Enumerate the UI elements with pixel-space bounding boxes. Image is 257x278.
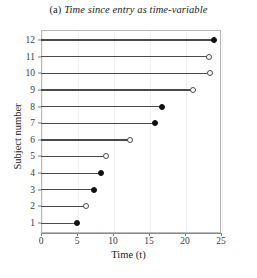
follow-up-line xyxy=(41,223,77,224)
figure-title-label: (a) xyxy=(50,4,62,15)
follow-up-line xyxy=(41,106,162,107)
censored-marker xyxy=(127,137,133,143)
follow-up-line xyxy=(41,56,209,57)
x-axis-tick-label: 10 xyxy=(108,236,118,246)
gridline-vertical xyxy=(150,31,151,232)
y-axis-tick-label: 12 xyxy=(5,35,35,45)
event-marker xyxy=(152,120,158,126)
event-marker xyxy=(211,37,217,43)
follow-up-line xyxy=(41,39,214,40)
x-axis-tick-label: 0 xyxy=(39,236,44,246)
follow-up-line xyxy=(41,89,193,90)
follow-up-line xyxy=(41,123,155,124)
figure-title: (a) Time since entry as time-variable xyxy=(0,4,257,15)
follow-up-line xyxy=(41,206,86,207)
censored-marker xyxy=(207,70,213,76)
event-marker xyxy=(74,220,80,226)
x-axis-line xyxy=(41,233,221,234)
gridline-vertical xyxy=(78,31,79,232)
y-axis-label: Subject number xyxy=(12,62,23,212)
y-axis-tick-label: 1 xyxy=(5,218,35,228)
figure-title-text: Time since entry as time-variable xyxy=(64,4,207,15)
event-marker xyxy=(159,104,165,110)
follow-up-line xyxy=(41,139,130,140)
event-marker xyxy=(98,170,104,176)
gridline-vertical xyxy=(114,31,115,232)
follow-up-line xyxy=(41,73,210,74)
x-axis-tick-label: 5 xyxy=(75,236,80,246)
figure-panel: (a) Time since entry as time-variable 12… xyxy=(0,0,257,278)
x-axis-label: Time (t) xyxy=(0,249,257,260)
x-axis-tick-label: 20 xyxy=(180,236,190,246)
event-marker xyxy=(91,187,97,193)
censored-marker xyxy=(206,54,212,60)
follow-up-line xyxy=(41,156,106,157)
x-axis-tick-label: 25 xyxy=(216,236,226,246)
y-axis-tick-label: 11 xyxy=(5,52,35,62)
gridline-vertical xyxy=(186,31,187,232)
x-axis-tick-mark xyxy=(221,233,222,236)
censored-marker xyxy=(190,87,196,93)
follow-up-line xyxy=(41,189,94,190)
gridline-vertical xyxy=(222,31,223,232)
follow-up-line xyxy=(41,173,101,174)
gridline-vertical xyxy=(42,31,43,232)
censored-marker xyxy=(83,203,89,209)
censored-marker xyxy=(103,153,109,159)
x-axis-tick-label: 15 xyxy=(144,236,154,246)
plot-area xyxy=(41,30,221,233)
